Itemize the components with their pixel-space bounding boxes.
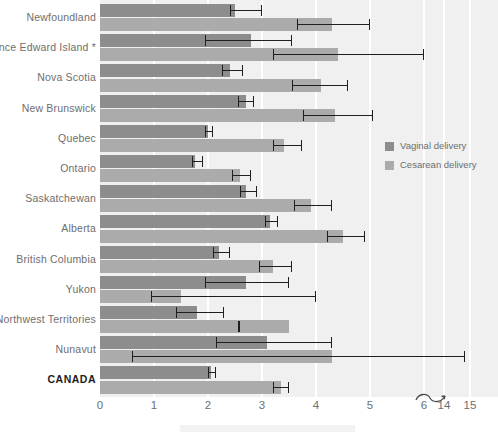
error-bar-vaginal [205,35,291,46]
error-bar-cesarean [273,49,424,60]
error-bar-cesarean [132,351,464,362]
error-bar-vaginal [222,65,244,76]
row-label-alberta: Alberta [61,222,96,234]
error-bar-cesarean [327,231,365,242]
error-bar-vaginal [205,126,213,137]
error-bar-vaginal [192,156,203,167]
chart-row: British Columbia [0,246,498,276]
bar-cesarean [100,381,281,394]
row-label-newfoundland: Newfoundland [26,11,96,23]
row-label-new-brunswick: New Brunswick [22,102,96,114]
chart-row: Newfoundland [0,4,498,34]
error-bar-cesarean [151,291,316,302]
error-bar-cesarean [292,80,349,91]
footer-band [180,425,355,432]
chart-row: Prince Edward Island * [0,34,498,64]
row-label-nunavut: Nunavut [55,343,96,355]
error-bar-vaginal [265,216,279,227]
error-bar-vaginal [176,307,225,318]
bar-vaginal [100,215,270,228]
bar-cesarean [100,139,284,152]
x-tick-1: 1 [151,399,157,411]
bar-vaginal [100,4,235,17]
bar-vaginal [100,155,195,168]
bar-cesarean [100,230,343,243]
bar-cesarean [100,109,335,122]
error-bar-cesarean [303,110,373,121]
error-bar-cesarean [232,170,251,181]
chart-row: Nunavut [0,336,498,366]
x-tick-3: 3 [259,399,265,411]
chart-row: Northwest Territories [0,306,498,336]
error-bar-vaginal [208,367,216,378]
row-label-nova-scotia: Nova Scotia [37,71,96,83]
error-bar-vaginal [216,337,332,348]
legend-swatch-icon [385,142,394,151]
chart-row: Saskatchewan [0,185,498,215]
bar-cesarean [100,169,240,182]
error-bar-vaginal [213,247,229,258]
row-label-prince-edward-island: Prince Edward Island * [0,41,96,53]
chart-rows: NewfoundlandPrince Edward Island *Nova S… [0,0,498,397]
legend-swatch-icon [385,161,394,170]
bar-vaginal [100,246,219,259]
x-tick-15: 15 [464,399,477,411]
row-label-quebec: Quebec [58,132,96,144]
x-tick-5: 5 [367,399,373,411]
bar-vaginal [100,185,246,198]
x-tick-14: 14 [438,399,451,411]
chart-row: Alberta [0,215,498,245]
x-tick-0: 0 [97,399,103,411]
error-bar-cesarean [297,19,370,30]
error-bar-cesarean [294,200,332,211]
chart-root: NewfoundlandPrince Edward Island *Nova S… [0,0,498,434]
row-label-northwest-territories: Northwest Territories [0,313,96,325]
error-bar-cesarean [273,382,289,393]
error-bar-vaginal [230,5,262,16]
x-tick-6: 6 [421,399,427,411]
error-bar-cesarean [273,140,303,151]
chart-row: Nova Scotia [0,64,498,94]
row-label-canada: CANADA [48,373,97,385]
bar-cesarean [100,199,311,212]
error-bar-cesarean [238,321,240,332]
row-label-saskatchewan: Saskatchewan [25,192,96,204]
x-tick-2: 2 [205,399,211,411]
x-tick-4: 4 [313,399,319,411]
bar-vaginal [100,366,211,379]
error-bar-vaginal [205,277,289,288]
error-bar-vaginal [240,186,256,197]
bar-vaginal [100,95,246,108]
x-axis: 01234561415 [0,397,498,419]
row-label-yukon: Yukon [66,283,96,295]
legend-label: Vaginal delivery [400,140,466,151]
bar-cesarean [100,260,273,273]
error-bar-cesarean [259,261,291,272]
bar-cesarean [100,320,289,333]
bar-vaginal [100,125,208,138]
legend-label: Cesarean delivery [400,159,477,170]
chart-row: Yukon [0,276,498,306]
chart-row: New Brunswick [0,95,498,125]
row-label-british-columbia: British Columbia [16,253,96,265]
row-label-ontario: Ontario [60,162,96,174]
error-bar-vaginal [238,96,254,107]
bar-vaginal [100,64,230,77]
bar-cesarean [100,79,321,92]
